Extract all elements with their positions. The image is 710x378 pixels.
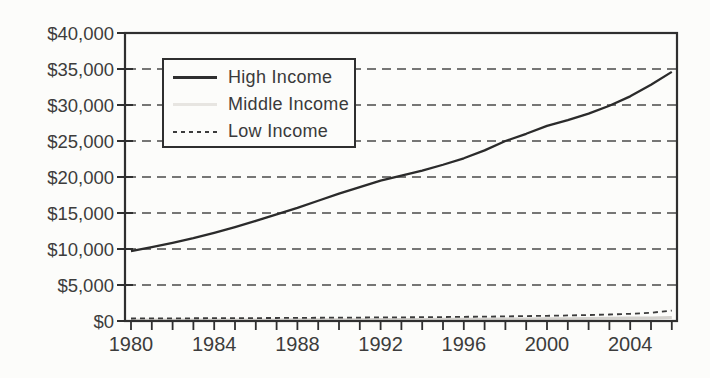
x-axis-tick-label: 2004 (608, 333, 653, 355)
legend-label-high-income: High Income (228, 67, 332, 88)
x-axis-tick-label: 1992 (358, 333, 403, 355)
y-axis-tick-label: $0 (93, 311, 114, 332)
legend: High Income Middle Income Low Income (162, 58, 356, 148)
low-income-line-sample-icon (173, 131, 217, 133)
legend-label-middle-income: Middle Income (228, 94, 349, 115)
middle-income-line-sample-icon (173, 103, 217, 106)
y-axis-tick-label: $10,000 (47, 239, 114, 260)
y-axis-tick-label: $25,000 (47, 131, 114, 152)
legend-label-low-income: Low Income (228, 121, 328, 142)
legend-item-low-income: Low Income (164, 118, 354, 145)
plot-area: $0$5,000$10,000$15,000$20,000$25,000$30,… (0, 0, 710, 378)
x-axis-tick-label: 1980 (109, 333, 154, 355)
legend-item-high-income: High Income (164, 64, 354, 91)
x-axis-tick-label: 1996 (442, 333, 487, 355)
y-axis-tick-label: $35,000 (47, 59, 114, 80)
income-line-chart: $0$5,000$10,000$15,000$20,000$25,000$30,… (0, 0, 710, 378)
legend-item-middle-income: Middle Income (164, 91, 354, 118)
y-axis-tick-label: $5,000 (57, 275, 114, 296)
high-income-line-sample-icon (173, 76, 217, 79)
y-axis-tick-label: $20,000 (47, 167, 114, 188)
x-axis-tick-label: 1984 (192, 333, 237, 355)
x-axis-tick-label: 1988 (275, 333, 320, 355)
y-axis-tick-label: $15,000 (47, 203, 114, 224)
x-axis-tick-label: 2000 (525, 333, 570, 355)
y-axis-tick-label: $40,000 (47, 23, 114, 44)
y-axis-tick-label: $30,000 (47, 95, 114, 116)
